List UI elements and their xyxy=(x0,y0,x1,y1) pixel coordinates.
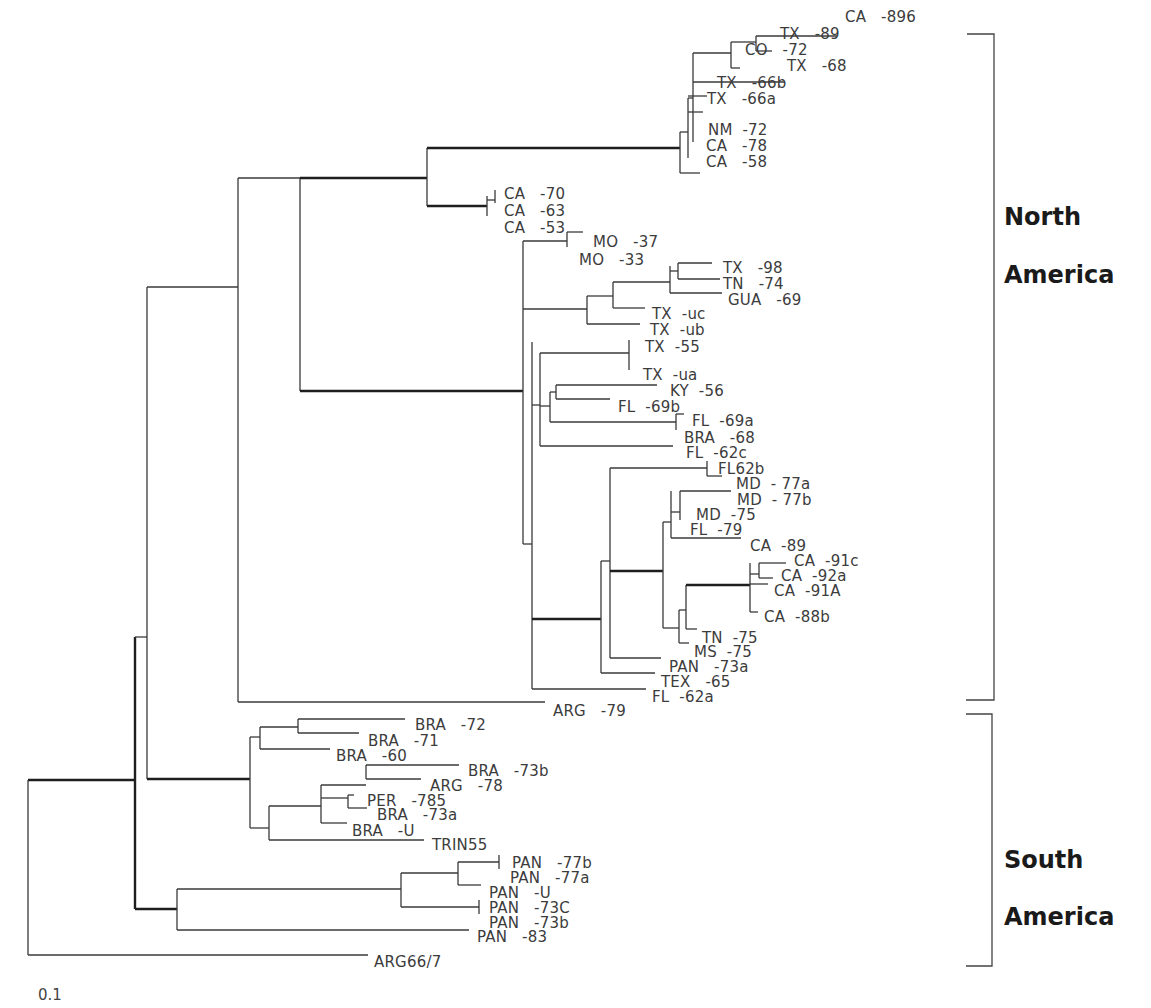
leaf-label: TX -55 xyxy=(644,338,700,356)
leaf-label: GUA -69 xyxy=(728,291,801,309)
leaf-label: TX -ub xyxy=(649,321,705,339)
leaf-label: FL -62a xyxy=(652,688,714,706)
leaf-label: CA -91A xyxy=(774,582,841,600)
leaf-labels: CA -896TX -89CO -72TX -68TX -66bTX -66aN… xyxy=(336,8,916,971)
leaf-label: PAN -83 xyxy=(477,928,547,946)
leaf-label: ARG -79 xyxy=(553,702,626,720)
south-america-label-line1: South xyxy=(1004,846,1083,874)
south-america-label-line2: America xyxy=(1004,903,1114,931)
leaf-label: TRIN55 xyxy=(431,836,488,854)
leaf-label: FL -69a xyxy=(692,412,754,430)
leaf-label: FL -79 xyxy=(690,521,742,539)
leaf-label: CA -63 xyxy=(504,202,565,220)
leaf-label: CA -70 xyxy=(504,185,565,203)
leaf-label: CA -896 xyxy=(845,8,916,26)
north-america-bracket xyxy=(966,34,994,700)
leaf-label: TX -66a xyxy=(706,90,776,108)
south-america-bracket xyxy=(966,714,992,966)
leaf-label: MO -33 xyxy=(579,251,644,269)
leaf-label: CA -58 xyxy=(706,153,767,171)
leaf-label: BRA -U xyxy=(352,822,415,840)
north-america-label-line1: North xyxy=(1004,203,1081,231)
leaf-label: CA -88b xyxy=(764,608,830,626)
north-america-label-line2: America xyxy=(1004,261,1114,289)
leaf-label: BRA -60 xyxy=(336,747,407,765)
leaf-label: FL -69b xyxy=(618,398,680,416)
region-brackets: North America South America xyxy=(966,34,1114,966)
leaf-label: TX -68 xyxy=(786,57,847,75)
leaf-label: ARG66/7 xyxy=(374,953,441,971)
leaf-label: MO -37 xyxy=(593,233,658,251)
phylogenetic-tree: CA -896TX -89CO -72TX -68TX -66bTX -66aN… xyxy=(0,0,1151,1008)
leaf-label: CA -53 xyxy=(504,219,565,237)
scale-bar-label: 0.1 xyxy=(38,986,62,1004)
